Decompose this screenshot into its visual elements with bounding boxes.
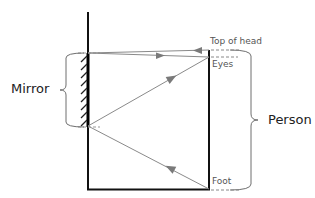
ray-foot — [88, 57, 209, 189]
eyes-label: Eyes — [212, 60, 233, 69]
person-brace — [230, 50, 258, 190]
top-of-head-label: Top of head — [210, 37, 262, 46]
arrow-up-right-icon — [166, 72, 179, 84]
foot-label: Foot — [212, 177, 231, 186]
arrow-left-icon — [193, 47, 202, 54]
mirror-label: Mirror — [11, 82, 49, 95]
arrow-right-icon — [156, 53, 165, 60]
ray-diagram — [0, 0, 315, 198]
person-label: Person — [268, 113, 312, 126]
arrow-up-left-icon — [164, 162, 177, 174]
arrow-icons — [156, 47, 202, 174]
mirror-hatching — [81, 56, 87, 126]
ray-top-of-head — [88, 50, 209, 57]
mirror-brace — [60, 53, 84, 127]
